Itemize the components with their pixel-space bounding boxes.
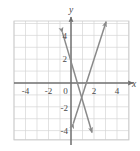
x-tick-label-2: 2 bbox=[92, 86, 97, 96]
y-tick-label-2: 2 bbox=[63, 54, 68, 64]
graph-canvas: -4 -2 0 2 4 4 2 -2 -4 x y bbox=[0, 0, 140, 151]
coordinate-plane-figure: -4 -2 0 2 4 4 2 -2 -4 x y bbox=[0, 0, 140, 151]
x-tick-label--4: -4 bbox=[22, 86, 30, 96]
x-tick-label-4: 4 bbox=[115, 86, 120, 96]
x-tick-label-0: 0 bbox=[63, 86, 68, 96]
x-axis-label: x bbox=[131, 79, 137, 89]
y-tick-label--2: -2 bbox=[61, 103, 69, 113]
y-axis-label: y bbox=[68, 5, 74, 15]
y-tick-label-4: 4 bbox=[63, 31, 68, 41]
x-tick-label--2: -2 bbox=[45, 86, 53, 96]
y-tick-label--4: -4 bbox=[61, 126, 69, 136]
